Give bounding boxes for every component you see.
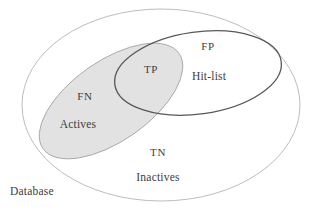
label-inactives: Inactives [136,171,180,183]
label-true-positive: TP [144,63,158,75]
label-true-negative: TN [150,146,166,158]
label-actives: Actives [60,118,97,130]
venn-diagram-canvas: FP Hit-list TP FN Actives TN Inactives D… [0,0,318,216]
venn-diagram-figure: FP Hit-list TP FN Actives TN Inactives D… [0,0,318,216]
label-hitlist: Hit-list [192,70,227,82]
label-false-positive: FP [201,40,214,52]
label-false-negative: FN [77,90,92,102]
label-database: Database [10,185,54,197]
